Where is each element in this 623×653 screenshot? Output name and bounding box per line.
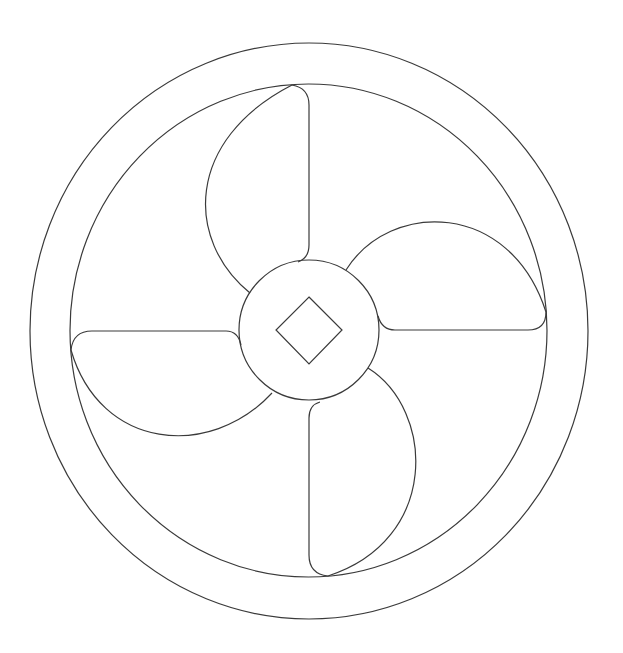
blade-left <box>71 331 272 436</box>
square-shaft-key <box>276 297 342 364</box>
blade-right <box>346 222 546 330</box>
hub <box>239 260 379 400</box>
blade-bottom <box>309 368 416 576</box>
fan-diagram: Fan propeller line drawing <box>0 0 623 653</box>
fan-icon <box>0 0 623 653</box>
